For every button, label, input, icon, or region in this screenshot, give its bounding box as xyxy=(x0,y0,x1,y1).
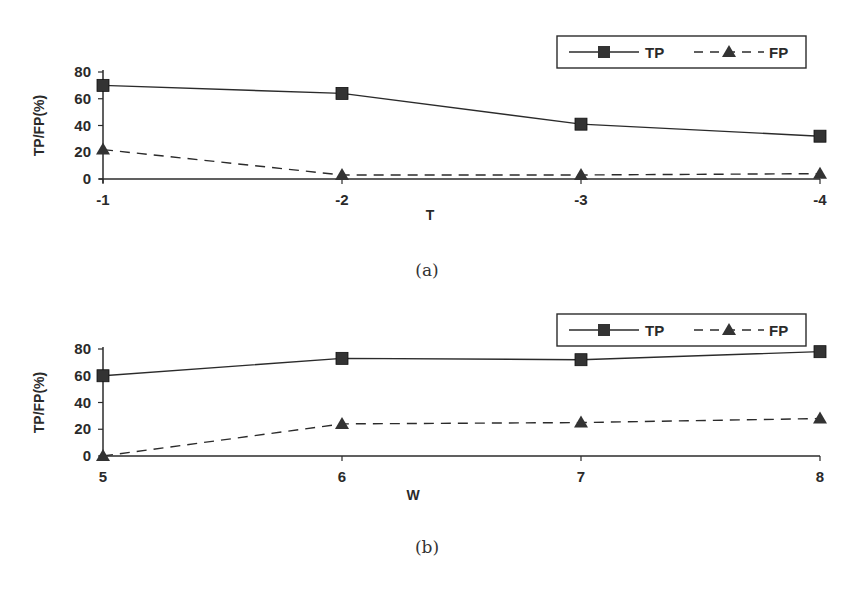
x-axis-label: T xyxy=(426,207,435,223)
square-marker xyxy=(97,370,109,382)
y-tick-label: 20 xyxy=(74,143,91,160)
triangle-marker xyxy=(813,412,827,424)
y-tick-label: 0 xyxy=(83,447,91,464)
square-marker xyxy=(336,352,348,364)
x-axis-label: W xyxy=(406,487,420,503)
legend-label: TP xyxy=(645,322,664,339)
legend-label: TP xyxy=(645,44,664,61)
square-marker xyxy=(575,118,587,130)
series-tp-line xyxy=(103,85,820,136)
figure: 020406080-1-2-3-4TP/FP(%)TTPFP(a)0204060… xyxy=(0,0,854,591)
y-tick-label: 40 xyxy=(74,394,91,411)
series-fp-line xyxy=(103,419,820,456)
x-tick-label: -3 xyxy=(574,191,587,208)
x-tick-label: 7 xyxy=(577,468,585,485)
triangle-marker xyxy=(813,167,827,179)
chart-b: 0204060805678TP/FP(%)WTPFP(b) xyxy=(31,314,827,557)
x-tick-label: -1 xyxy=(96,191,109,208)
x-tick-label: 8 xyxy=(816,468,824,485)
y-tick-label: 60 xyxy=(74,367,91,384)
series-tp-line xyxy=(103,352,820,376)
square-marker xyxy=(814,130,826,142)
figure-caption: (b) xyxy=(415,537,439,557)
series-fp-line xyxy=(103,150,820,175)
legend-label: FP xyxy=(769,44,788,61)
square-marker xyxy=(97,79,109,91)
y-tick-label: 40 xyxy=(74,117,91,134)
y-axis-label: TP/FP(%) xyxy=(31,372,47,433)
y-tick-label: 0 xyxy=(83,170,91,187)
y-tick-label: 80 xyxy=(74,340,91,357)
legend-label: FP xyxy=(769,322,788,339)
square-marker xyxy=(814,346,826,358)
legend: TPFP xyxy=(557,314,806,346)
triangle-marker xyxy=(335,168,349,180)
y-axis-label: TP/FP(%) xyxy=(31,95,47,156)
legend: TPFP xyxy=(557,36,806,68)
y-tick-label: 80 xyxy=(74,63,91,80)
x-tick-label: 6 xyxy=(338,468,346,485)
x-tick-label: 5 xyxy=(99,468,107,485)
x-tick-label: -4 xyxy=(813,191,827,208)
triangle-marker xyxy=(335,417,349,429)
chart-a: 020406080-1-2-3-4TP/FP(%)TTPFP(a) xyxy=(31,36,827,280)
square-marker xyxy=(336,87,348,99)
x-tick-label: -2 xyxy=(335,191,348,208)
triangle-marker xyxy=(96,143,110,155)
square-marker xyxy=(575,354,587,366)
triangle-marker xyxy=(574,168,588,180)
square-marker xyxy=(598,324,610,336)
y-tick-label: 20 xyxy=(74,420,91,437)
figure-caption: (a) xyxy=(415,260,438,280)
square-marker xyxy=(598,46,610,58)
triangle-marker xyxy=(574,416,588,428)
y-tick-label: 60 xyxy=(74,90,91,107)
